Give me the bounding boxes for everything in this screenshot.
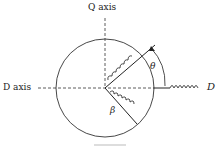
- rotor-axis-line: [105, 45, 155, 88]
- d-axis-label: D axis: [3, 82, 31, 92]
- theta-arrow-icon: [149, 46, 155, 51]
- d-label-right: D: [207, 81, 215, 92]
- stator-coil-icon: [170, 86, 198, 89]
- theta-label: θ: [150, 61, 155, 71]
- beta-label: β: [110, 105, 115, 115]
- q-axis-label: Q axis: [88, 2, 116, 12]
- rotor-diagram: [0, 0, 219, 150]
